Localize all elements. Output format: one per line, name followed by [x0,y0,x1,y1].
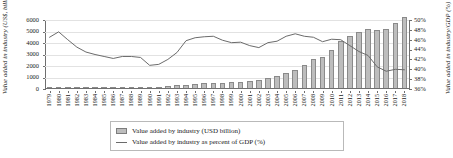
x-axis-tick-label: 1992 [165,94,171,106]
x-axis-tick-mark [177,91,178,93]
y-axis-right-tick-mark [409,59,412,60]
x-axis-tick-mark [68,91,69,93]
y-axis-right-tick-label: 48% [414,27,426,33]
x-axis-tick-label: 2008 [310,94,316,106]
x-axis-tick-mark [304,91,305,93]
x-axis-tick-label: 2013 [356,94,362,106]
y-axis-left-tick-label: 2000 [26,63,39,69]
y-axis-left-tick-mark [43,20,46,21]
y-axis-right-tick-mark [409,50,412,51]
legend-label-bars: Value added by industry (USD billion) [132,127,240,135]
x-axis-tick-mark [168,91,169,93]
y-axis-left-tick-label: 6000 [26,17,39,23]
y-axis-left-tick-label: 3000 [26,51,39,57]
x-axis-tick-label: 2001 [247,94,253,106]
x-axis-tick-mark [359,91,360,93]
y-axis-left-tick-mark [43,55,46,56]
x-axis-labels: 1979198019811982198319841985198619871988… [45,91,409,121]
y-axis-left-tick-label: 1000 [26,74,39,80]
y-axis-left-tick-label: 4000 [26,40,39,46]
y-axis-left-tick-mark [43,89,46,90]
x-axis-tick-label: 1979 [46,94,52,106]
x-axis-tick-label: 2003 [265,94,271,106]
x-axis-tick-label: 1993 [174,94,180,106]
line-swatch-icon [116,139,127,145]
x-axis-tick-mark [150,91,151,93]
y-axis-left-tick-mark [43,32,46,33]
y-axis-right-tick-label: 46% [414,37,426,43]
x-axis-tick-label: 2002 [256,94,262,106]
x-axis-tick-mark [313,91,314,93]
x-axis-tick-mark [377,91,378,93]
x-axis-tick-label: 1991 [156,94,162,106]
y-axis-right-ticks: 36%38%40%42%44%46%48%50% [412,0,453,158]
y-axis-left-tick-label: 5000 [26,28,39,34]
y-axis-left-tick-label: 0 [36,86,39,92]
x-axis-tick-label: 2018 [401,94,407,106]
x-axis-tick-label: 1995 [192,94,198,106]
x-axis-tick-label: 1984 [92,94,98,106]
x-axis-tick-mark [259,91,260,93]
y-axis-left-tick-mark [43,43,46,44]
bar-swatch-icon [116,128,127,134]
x-axis-tick-label: 1997 [210,94,216,106]
x-axis-tick-label: 1985 [101,94,107,106]
x-axis-tick-label: 1983 [83,94,89,106]
x-axis-tick-mark [386,91,387,93]
x-axis-tick-label: 2005 [283,94,289,106]
y-axis-right-tick-label: 38% [414,76,426,82]
x-axis-tick-mark [232,91,233,93]
chart-container: Value added in industry (US$, billion) V… [0,0,453,158]
x-axis-tick-label: 2016 [383,94,389,106]
x-axis-tick-label: 2006 [292,94,298,106]
x-axis-tick-label: 2014 [365,94,371,106]
x-axis-tick-label: 1988 [128,94,134,106]
y-axis-right-tick-label: 42% [414,56,426,62]
x-axis-tick-label: 1987 [119,94,125,106]
x-axis-tick-mark [404,91,405,93]
x-axis-tick-mark [159,91,160,93]
y-axis-right-tick-label: 44% [414,46,426,52]
x-axis-tick-mark [204,91,205,93]
x-axis-tick-label: 1989 [137,94,143,106]
chart-legend: Value added by industry (USD billion) Va… [110,121,344,151]
legend-item-bars: Value added by industry (USD billion) [116,125,337,136]
x-axis-tick-mark [195,91,196,93]
x-axis-tick-label: 1994 [183,94,189,106]
x-axis-tick-mark [59,91,60,93]
x-axis-tick-label: 2007 [301,94,307,106]
x-axis-tick-mark [268,91,269,93]
x-axis-tick-mark [104,91,105,93]
y-axis-right-tick-mark [409,89,412,90]
y-axis-right-tick-mark [409,30,412,31]
x-axis-tick-label: 1990 [147,94,153,106]
x-axis-tick-label: 1981 [65,94,71,106]
x-axis-tick-label: 2011 [338,94,344,106]
x-axis-tick-mark [295,91,296,93]
x-axis-tick-mark [113,91,114,93]
x-axis-tick-mark [122,91,123,93]
x-axis-tick-label: 2017 [392,94,398,106]
x-axis-tick-mark [341,91,342,93]
y-axis-right-tick-mark [409,40,412,41]
y-axis-right-tick-label: 36% [414,86,426,92]
x-axis-tick-label: 2010 [329,94,335,106]
x-axis-tick-mark [323,91,324,93]
x-axis-tick-mark [241,91,242,93]
x-axis-line [45,88,409,89]
x-axis-tick-mark [77,91,78,93]
x-axis-tick-mark [250,91,251,93]
x-axis-tick-label: 1980 [56,94,62,106]
x-axis-tick-mark [141,91,142,93]
y-axis-left-ticks: 0100020003000400050006000 [0,0,44,158]
plot-area [45,20,409,89]
x-axis-tick-label: 2004 [274,94,280,106]
x-axis-tick-mark [131,91,132,93]
x-axis-tick-label: 1996 [201,94,207,106]
y-axis-right-tick-mark [409,20,412,21]
y-axis-right-tick-mark [409,79,412,80]
y-axis-right-tick-mark [409,69,412,70]
y-axis-right-tick-label: 50% [414,17,426,23]
x-axis-tick-mark [350,91,351,93]
x-axis-tick-mark [332,91,333,93]
